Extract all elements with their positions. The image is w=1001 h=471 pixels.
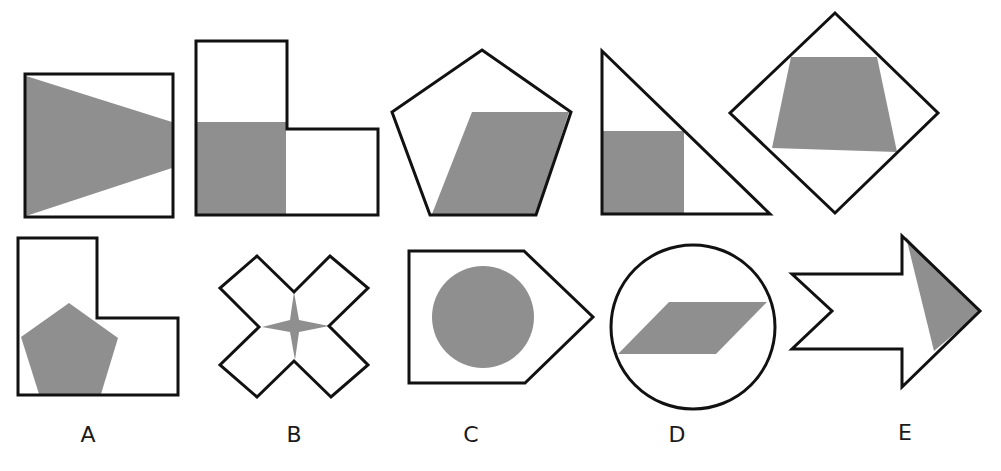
example-3-pentagon-parallelogram <box>392 50 571 215</box>
option-d-figure[interactable] <box>611 245 775 409</box>
shaded-triangle <box>906 237 980 351</box>
option-c-figure[interactable] <box>409 251 593 383</box>
example-1-square-triangle <box>25 74 173 217</box>
shaded-square <box>196 122 286 215</box>
shaded-trapezoid <box>772 57 897 152</box>
option-label-d[interactable]: D <box>657 422 697 448</box>
shaded-triangle <box>26 76 172 216</box>
example-4-triangle-square <box>602 51 770 214</box>
shaded-parallelogram <box>618 302 767 354</box>
option-e-figure[interactable] <box>792 236 980 387</box>
shaded-square <box>603 131 684 214</box>
shaded-parallelogram <box>432 112 569 214</box>
puzzle-canvas <box>0 0 1001 471</box>
shaded-circle <box>432 266 534 368</box>
option-label-e[interactable]: E <box>885 420 925 446</box>
option-label-a[interactable]: A <box>68 422 108 448</box>
shaded-four-point-star <box>262 292 329 360</box>
option-label-b[interactable]: B <box>274 422 314 448</box>
example-5-diamond-trapezoid <box>730 13 938 213</box>
option-b-figure[interactable] <box>220 256 368 397</box>
option-a-figure[interactable] <box>18 238 178 395</box>
option-label-c[interactable]: C <box>451 422 491 448</box>
example-2-lshape-square <box>196 41 378 215</box>
